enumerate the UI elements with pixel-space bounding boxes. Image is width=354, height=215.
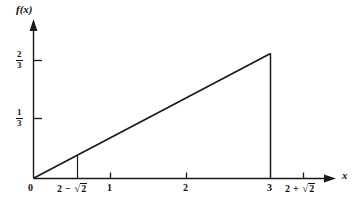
x-tick-label-two: 2 xyxy=(183,183,188,193)
fraction-denominator: 3 xyxy=(16,61,23,70)
y-axis-label: f(x) xyxy=(16,4,33,15)
sqrt-icon: √2 xyxy=(74,183,88,194)
y-tick-label-two-thirds: 2 3 xyxy=(16,50,23,71)
radical-lead: 2 + xyxy=(285,183,302,194)
fraction-numerator: 2 xyxy=(16,50,23,59)
radical-radicand: 2 xyxy=(80,183,87,194)
x-axis-label: x xyxy=(342,170,348,181)
sqrt-icon: √2 xyxy=(302,183,316,194)
function-line-segment xyxy=(34,54,271,179)
radical-lead: 2 − xyxy=(57,183,74,194)
x-tick-label-two-minus-sqrt2: 2 − √2 xyxy=(57,183,87,194)
fraction-numerator: 1 xyxy=(16,108,23,117)
x-tick-label-origin: 0 xyxy=(28,183,33,193)
y-tick-label-one-third: 1 3 xyxy=(16,108,23,129)
x-tick-label-two-plus-sqrt2: 2 + √2 xyxy=(285,183,315,194)
x-axis-arrowhead xyxy=(324,175,336,183)
figure-container: f(x) x 2 3 1 3 0 2 − √2 1 2 3 2 + √2 xyxy=(0,0,354,215)
x-tick-label-three: 3 xyxy=(267,183,272,193)
x-tick-label-one: 1 xyxy=(107,183,112,193)
y-axis-arrowhead xyxy=(30,19,38,31)
radical-radicand: 2 xyxy=(308,183,315,194)
fraction-denominator: 3 xyxy=(16,119,23,128)
